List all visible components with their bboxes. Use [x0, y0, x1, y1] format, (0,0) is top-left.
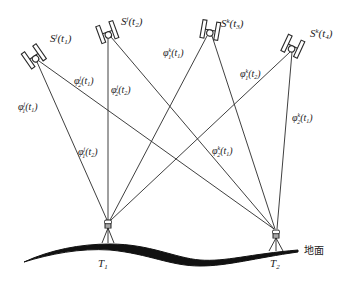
label-sk-t3: Sk(t3) [221, 17, 244, 31]
satellite-icon [31, 54, 40, 63]
signal-rays [37, 36, 292, 229]
label-T1: T1 [98, 257, 108, 271]
satellite-sk-t4 [281, 34, 305, 58]
phase-label: φj2(t1) [74, 75, 94, 88]
ground-label: 地面 [304, 244, 324, 256]
phase-label: φk1(t2) [240, 68, 261, 81]
tripod-icon [102, 228, 108, 243]
satellite-sj-t2 [96, 21, 119, 44]
phase-label: φj1(t2) [78, 146, 98, 159]
solar-panel-icon [96, 25, 106, 43]
label-sj-t2: Sj(t2) [121, 15, 143, 29]
satellite-sk-t3 [200, 20, 221, 41]
ray-sj-t2-to-T2 [111, 37, 274, 229]
phase-labels: φj1(t1) φj2(t1) φj2(t2) φj1(t2) φk1(t1) … [18, 47, 313, 159]
phase-label: φk2(t1) [212, 145, 233, 158]
label-sk-t4: Sk(t4) [310, 27, 333, 41]
phase-label: φk1(t1) [163, 47, 184, 60]
ray-sk-t3-to-T1 [110, 36, 207, 220]
satellite-icon [206, 29, 213, 36]
antenna-icon [105, 220, 112, 224]
phase-label: φk2(t1) [292, 112, 313, 125]
ray-sk-t4-to-T1 [111, 52, 290, 220]
satellite-sj-t1 [21, 44, 46, 69]
ray-sk-t4-to-T2 [277, 52, 292, 229]
phase-label: φj1(t1) [18, 101, 38, 114]
receiver-T1 [102, 220, 114, 243]
label-T2: T2 [270, 257, 280, 271]
label-sj-t1: Sj(t1) [50, 32, 72, 46]
antenna-icon [273, 230, 280, 234]
ray-sj-t1-to-T1 [37, 62, 107, 220]
receiver-T2 [269, 230, 283, 251]
phase-label: φj2(t2) [111, 84, 131, 97]
ground-surface [24, 244, 298, 266]
gps-observation-diagram: Sj(t1) Sj(t2) Sk(t3) Sk(t4) φj1(t1) φj2(… [0, 0, 358, 286]
ray-sk-t3-to-T2 [212, 36, 275, 229]
satellite-icon [287, 45, 296, 54]
tripod-icon [269, 238, 276, 251]
